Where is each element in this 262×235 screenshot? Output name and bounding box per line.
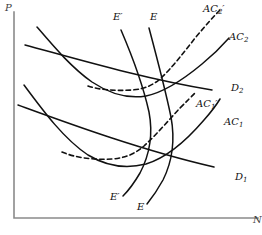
label-ac1-prime: AC1′ xyxy=(196,99,218,109)
curve-ac1 xyxy=(24,85,220,166)
label-e-top: E xyxy=(150,12,157,22)
label-d2: D2 xyxy=(231,83,244,93)
diagram-canvas xyxy=(0,0,262,235)
label-ac2-prime-mark: ′ xyxy=(222,3,224,14)
label-ac2-text: AC xyxy=(229,31,244,42)
label-d1: D1 xyxy=(235,172,248,182)
curve-e xyxy=(147,28,173,204)
label-ac2-prime: AC2′ xyxy=(203,4,225,14)
label-e-prime-bottom-mark: ′ xyxy=(117,191,119,202)
label-ac1-text: AC xyxy=(224,116,239,127)
x-axis-label: N xyxy=(253,214,262,225)
label-e-prime-top: E′ xyxy=(113,12,123,22)
label-d2-sub: 2 xyxy=(239,87,243,95)
label-ac2: AC2 xyxy=(229,32,248,42)
label-ac1-prime-mark: ′ xyxy=(215,98,217,109)
y-axis-label: P xyxy=(5,2,12,13)
label-e-prime-top-mark: ′ xyxy=(120,11,122,22)
label-e-prime-bottom: E′ xyxy=(110,192,120,202)
label-d1-sub: 1 xyxy=(243,176,247,184)
label-ac1-prime-sub: 1 xyxy=(211,103,215,111)
label-ac1-sub: 1 xyxy=(239,121,243,129)
curve-ac1-prime xyxy=(62,93,195,159)
label-e-bottom: E xyxy=(137,202,144,212)
curve-e-prime xyxy=(121,30,151,196)
label-d1-text: D xyxy=(235,171,243,182)
label-ac2-sub: 2 xyxy=(244,36,248,44)
economics-diagram: P N AC2′ AC2 D2 AC1′ AC1 D1 E E′ E′ E xyxy=(0,0,262,235)
label-ac2-prime-text: AC xyxy=(203,3,218,14)
label-ac1-prime-text: AC xyxy=(196,98,211,109)
line-d1 xyxy=(18,105,214,167)
label-e-bottom-text: E xyxy=(137,201,144,212)
label-e-top-text: E xyxy=(150,11,157,22)
label-ac2-prime-sub: 2 xyxy=(218,8,222,16)
label-ac1: AC1 xyxy=(224,117,243,127)
label-d2-text: D xyxy=(231,82,239,93)
